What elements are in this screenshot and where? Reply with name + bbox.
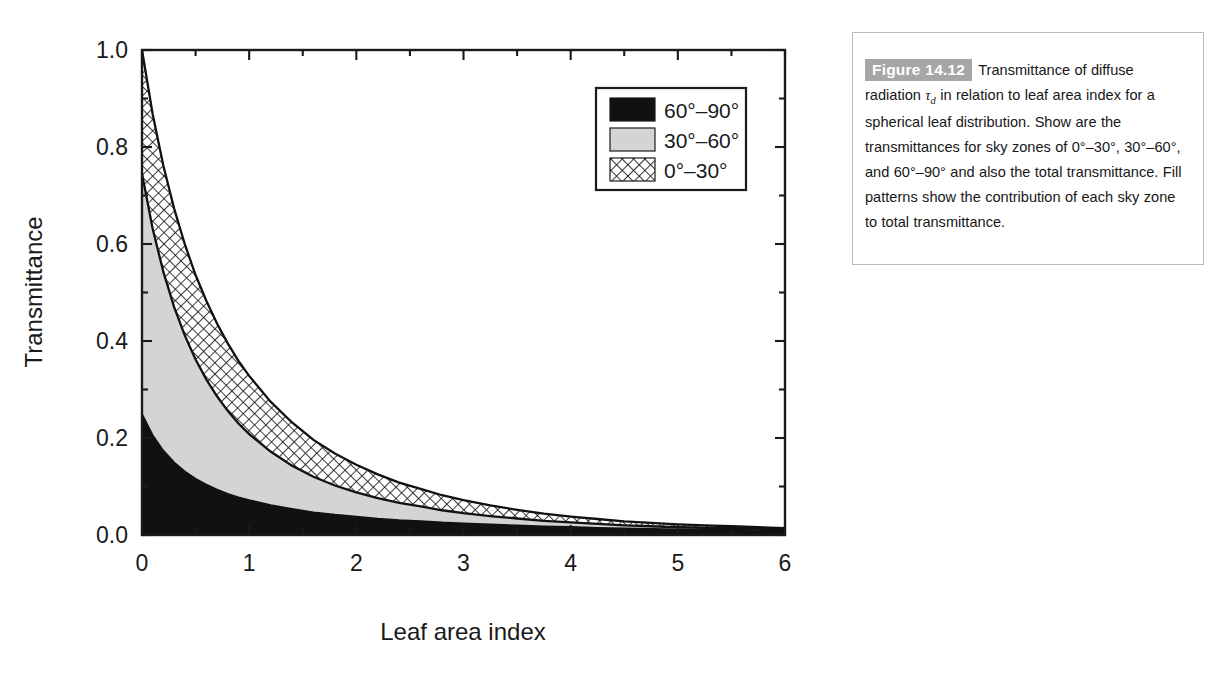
y-tick-labels: 0.00.20.40.60.81.0 xyxy=(96,37,128,548)
y-tick-label: 0.8 xyxy=(96,134,128,160)
figure-page: 0123456 0.00.20.40.60.81.0 Leaf area ind… xyxy=(0,0,1224,689)
y-tick-label: 0.2 xyxy=(96,425,128,451)
y-tick-label: 0.6 xyxy=(96,231,128,257)
legend-swatch-60-90 xyxy=(610,98,655,121)
y-tick-label: 1.0 xyxy=(96,37,128,63)
x-tick-label: 3 xyxy=(457,550,470,576)
y-tick-label: 0.0 xyxy=(96,522,128,548)
caption-sentence-2: in relation to leaf area index for a sph… xyxy=(865,87,1181,230)
legend-swatch-0-30 xyxy=(610,158,655,181)
x-tick-label: 2 xyxy=(350,550,363,576)
x-tick-label: 0 xyxy=(136,550,149,576)
legend-label-60-90: 60°–90° xyxy=(664,99,739,122)
chart-figure: 0123456 0.00.20.40.60.81.0 Leaf area ind… xyxy=(0,0,830,689)
legend-swatch-30-60 xyxy=(610,128,655,151)
y-axis-title: Transmittance xyxy=(20,216,47,367)
x-tick-label: 1 xyxy=(243,550,256,576)
figure-number-tag: Figure 14.12 xyxy=(865,59,972,82)
legend-label-0-30: 0°–30° xyxy=(664,159,728,182)
x-tick-label: 4 xyxy=(564,550,577,576)
figure-caption-text: Figure 14.12Transmittance of diffuse rad… xyxy=(865,58,1189,236)
x-axis-title: Leaf area index xyxy=(380,618,545,645)
legend-label-30-60: 30°–60° xyxy=(664,129,739,152)
x-tick-label: 5 xyxy=(671,550,684,576)
x-tick-labels: 0123456 xyxy=(136,550,792,576)
figure-caption-panel: Figure 14.12Transmittance of diffuse rad… xyxy=(852,32,1204,265)
y-tick-label: 0.4 xyxy=(96,328,128,354)
transmittance-area-chart: 0123456 0.00.20.40.60.81.0 Leaf area ind… xyxy=(0,0,830,689)
x-tick-label: 6 xyxy=(779,550,792,576)
chart-legend: 60°–90° 30°–60° 0°–30° xyxy=(596,88,746,190)
